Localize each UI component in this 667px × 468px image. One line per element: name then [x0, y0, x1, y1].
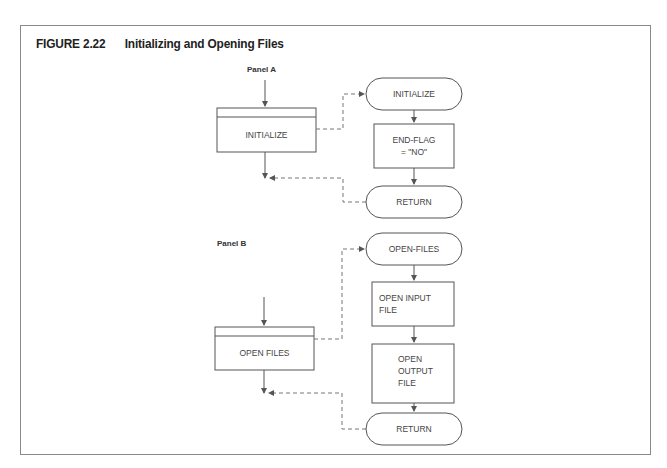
- process-open-output-line3: FILE: [398, 378, 416, 388]
- process-open-output-line1: OPEN: [398, 354, 422, 364]
- terminal-return-a-label: RETURN: [396, 197, 431, 207]
- dashed-call-initialize: [316, 94, 364, 129]
- panel-b-label: Panel B: [217, 239, 247, 248]
- flowchart: Panel A INITIALIZE INITIALIZE END-FLAG =…: [0, 0, 667, 468]
- terminal-initialize-label: INITIALIZE: [393, 89, 435, 99]
- process-end-flag-line2: = "NO": [401, 147, 427, 157]
- process-end-flag-line1: END-FLAG: [393, 135, 436, 145]
- process-open-input-file: [372, 282, 454, 326]
- panel-a-label: Panel A: [247, 65, 276, 74]
- module-box-initialize-label: INITIALIZE: [245, 130, 287, 140]
- terminal-return-b-label: RETURN: [396, 424, 431, 434]
- module-box-open-files-label: OPEN FILES: [239, 348, 289, 358]
- process-end-flag: [374, 124, 454, 168]
- process-open-input-line1: OPEN INPUT: [379, 293, 431, 303]
- process-open-output-line2: OUTPUT: [398, 366, 433, 376]
- process-open-input-line2: FILE: [379, 305, 397, 315]
- terminal-open-files-label: OPEN-FILES: [389, 244, 440, 254]
- dashed-call-open-files: [314, 249, 364, 339]
- dashed-return-initialize: [270, 178, 366, 202]
- dashed-return-open-files: [269, 393, 366, 429]
